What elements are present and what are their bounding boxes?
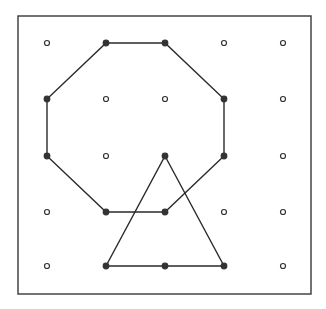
peg — [104, 97, 109, 102]
peg — [45, 264, 50, 269]
peg — [281, 41, 286, 46]
octagon-shape — [47, 43, 224, 212]
peg — [162, 263, 168, 269]
peg — [281, 154, 286, 159]
peg — [103, 209, 109, 215]
peg — [281, 264, 286, 269]
peg — [45, 41, 50, 46]
peg — [103, 263, 109, 269]
peg — [44, 153, 50, 159]
peg — [104, 154, 109, 159]
peg — [162, 153, 168, 159]
pegs-layer — [44, 40, 285, 269]
peg — [45, 210, 50, 215]
peg — [222, 41, 227, 46]
peg — [281, 97, 286, 102]
peg — [162, 209, 168, 215]
geoboard-diagram — [0, 0, 326, 309]
shapes-layer — [47, 43, 224, 266]
peg — [103, 40, 109, 46]
peg — [163, 97, 168, 102]
peg — [44, 96, 50, 102]
peg — [222, 210, 227, 215]
peg — [162, 40, 168, 46]
peg — [221, 263, 227, 269]
peg — [221, 153, 227, 159]
peg — [281, 210, 286, 215]
peg — [221, 96, 227, 102]
